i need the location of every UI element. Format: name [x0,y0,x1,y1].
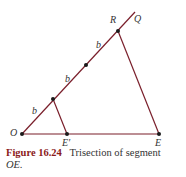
caption-text-line1: Trisection of segment [70,147,161,158]
segment-RE [118,31,159,134]
point-E [157,132,161,136]
point-R [116,29,120,33]
point-P1 [51,97,55,101]
label-O: O [10,128,17,138]
caption-text-line2: OE. [6,159,23,170]
segment-P1-Eprime [53,99,67,134]
label-R: R [110,15,116,25]
point-O [20,132,24,136]
label-b1: b [32,106,37,116]
figure-caption: Figure 16.24 Trisection of segment OE. [6,147,184,171]
point-E-prime [65,132,69,136]
point-P2 [84,63,88,67]
label-b3: b [96,40,101,50]
label-b2: b [65,74,70,84]
label-Q: Q [134,14,141,24]
figure-number: Figure 16.24 [6,147,62,158]
